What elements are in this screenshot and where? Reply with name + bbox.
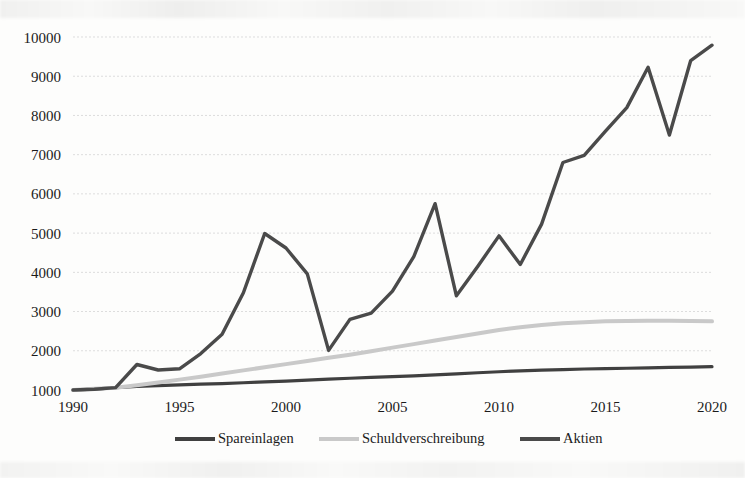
gridlines-group — [73, 37, 712, 390]
y-tick-label: 3000 — [31, 304, 61, 320]
y-tick-label: 6000 — [31, 186, 61, 202]
y-axis-tick-labels: 1000200030004000500060007000800090001000… — [24, 30, 62, 399]
data-series-group — [73, 45, 712, 390]
x-tick-label: 1995 — [165, 399, 195, 415]
legend-label-schuldverschreibung: Schuldverschreibung — [362, 430, 484, 446]
x-tick-label: 2000 — [271, 399, 301, 415]
x-tick-label: 2015 — [591, 399, 621, 415]
series-line-aktien — [73, 45, 712, 390]
chart-legend: SpareinlagenSchuldverschreibungAktien — [175, 430, 603, 446]
x-axis-tick-labels: 1990199520002005201020152020 — [58, 399, 727, 415]
series-line-schuldverschreibung — [73, 321, 712, 390]
x-tick-label: 1990 — [58, 399, 88, 415]
x-tick-label: 2010 — [484, 399, 514, 415]
y-tick-label: 2000 — [31, 343, 61, 359]
x-tick-label: 2005 — [378, 399, 408, 415]
line-chart: 1000200030004000500060007000800090001000… — [0, 0, 745, 478]
y-tick-label: 5000 — [31, 226, 61, 242]
y-tick-label: 9000 — [31, 69, 61, 85]
y-tick-label: 7000 — [31, 147, 61, 163]
legend-label-aktien: Aktien — [563, 430, 603, 446]
y-tick-label: 4000 — [31, 265, 61, 281]
chart-page: 1000200030004000500060007000800090001000… — [0, 0, 745, 478]
y-tick-label: 8000 — [31, 108, 61, 124]
y-tick-label: 10000 — [24, 30, 62, 46]
y-tick-label: 1000 — [31, 383, 61, 399]
legend-label-spareinlagen: Spareinlagen — [218, 430, 294, 446]
x-tick-label: 2020 — [697, 399, 727, 415]
